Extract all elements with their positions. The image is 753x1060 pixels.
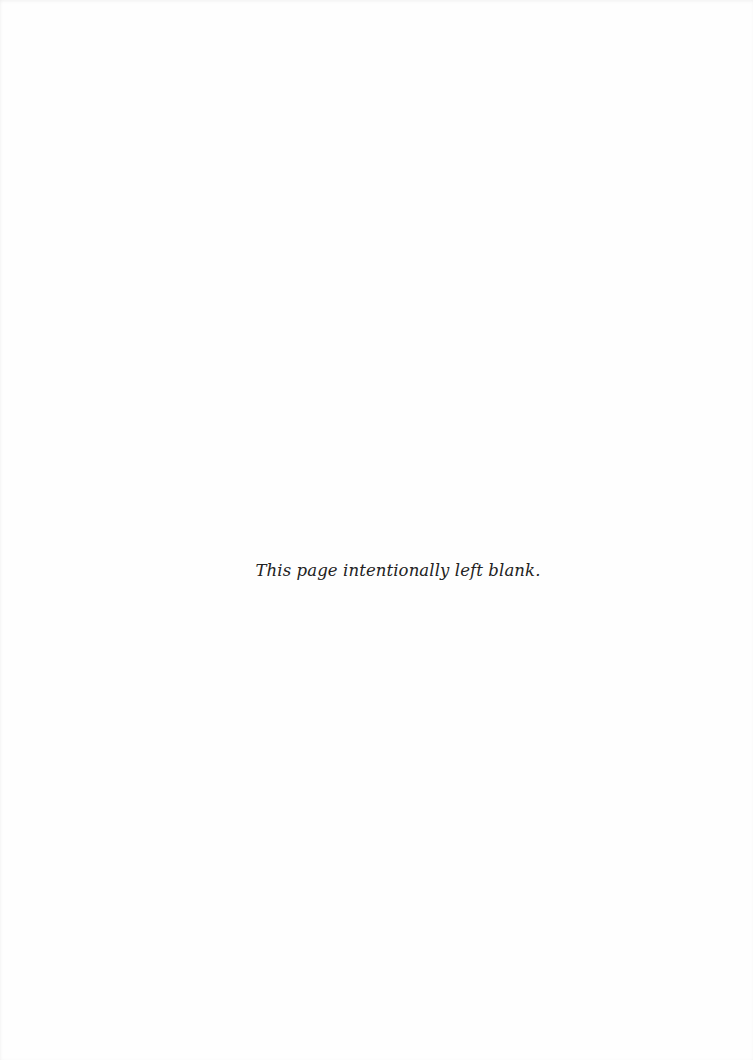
document-page: This page intentionally left blank. bbox=[0, 0, 753, 1060]
blank-page-notice: This page intentionally left blank. bbox=[0, 561, 753, 580]
